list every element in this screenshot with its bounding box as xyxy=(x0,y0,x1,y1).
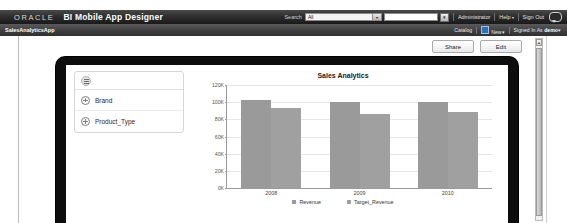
chevron-down-icon: ▾ xyxy=(502,29,505,35)
vertical-scrollbar[interactable]: ▴ xyxy=(535,38,543,221)
page-body: Share Edit ▴ Brand xyxy=(0,36,567,223)
app-title: BI Mobile App Designer xyxy=(63,12,162,22)
filter-item-product-type[interactable]: Product_Type xyxy=(75,111,183,132)
catalog-link[interactable]: Catalog xyxy=(454,27,472,33)
hamburger-menu-icon[interactable] xyxy=(81,76,91,86)
device-screen: Brand Product_Type Sales Analytics 0K20K… xyxy=(66,65,508,223)
header-link-sign-out[interactable]: Sign Out xyxy=(523,14,544,20)
screenshot-root: ORACLE BI Mobile App Designer Search All… xyxy=(0,0,567,223)
filter-panel: Brand Product_Type xyxy=(74,71,184,133)
chat-bubble-icon[interactable] xyxy=(549,12,562,22)
global-header-right: Search All ▾ ▾ Administrator Help▾ Sign … xyxy=(284,10,567,24)
chart-gridline xyxy=(227,85,492,86)
legend-swatch-icon xyxy=(292,200,296,204)
sales-analytics-chart: Sales Analytics 0K20K40K60K80K100K120K20… xyxy=(184,69,502,219)
breadcrumb: SalesAnalyticsApp xyxy=(5,27,55,33)
search-scope-select[interactable]: All ▾ xyxy=(305,13,382,21)
y-axis-tick-label: 100K xyxy=(212,99,224,105)
header-link-administrator[interactable]: Administrator xyxy=(458,14,490,20)
new-menu[interactable]: New▾ xyxy=(481,26,504,35)
chart-bar[interactable] xyxy=(418,102,448,188)
y-axis-tick-label: 0K xyxy=(218,185,224,191)
sub-header-right: Catalog New▾ Signed In As demo▾ xyxy=(454,26,567,35)
y-axis-tick-label: 120K xyxy=(212,82,224,88)
y-axis-tick-mark xyxy=(225,102,227,103)
y-axis-tick-mark xyxy=(225,171,227,172)
scroll-up-arrow-icon[interactable]: ▴ xyxy=(536,39,542,46)
y-axis-tick-mark xyxy=(225,85,227,86)
scrollbar-thumb[interactable] xyxy=(536,48,542,216)
header-link-help-label: Help xyxy=(499,14,510,20)
plus-circle-icon[interactable] xyxy=(81,117,90,126)
signed-in-as-label: Signed In As xyxy=(514,27,543,33)
legend-label: Revenue xyxy=(299,199,321,205)
new-menu-label: New xyxy=(491,29,501,35)
sub-header-divider xyxy=(509,27,510,34)
x-axis-tick-label: 2010 xyxy=(442,190,454,196)
header-divider xyxy=(518,13,519,21)
filter-item-brand[interactable]: Brand xyxy=(75,90,183,111)
legend-swatch-icon xyxy=(347,200,351,204)
chart-bar[interactable] xyxy=(241,100,271,188)
new-document-icon xyxy=(481,26,489,34)
legend-item[interactable]: Target_Revenue xyxy=(347,199,394,205)
plus-circle-icon[interactable] xyxy=(81,96,90,105)
global-header: ORACLE BI Mobile App Designer Search All… xyxy=(0,10,567,24)
chart-bar[interactable] xyxy=(360,114,390,188)
chart-legend: RevenueTarget_Revenue xyxy=(184,199,502,205)
y-axis-tick-label: 80K xyxy=(215,116,224,122)
signed-in-user: demo xyxy=(544,27,558,33)
chart-title: Sales Analytics xyxy=(184,72,502,79)
y-axis-tick-label: 60K xyxy=(215,134,224,140)
chevron-down-icon: ▾ xyxy=(558,27,561,33)
filter-item-label: Product_Type xyxy=(95,118,135,125)
content-frame: Share Edit ▴ Brand xyxy=(18,36,547,223)
y-axis-tick-mark xyxy=(225,119,227,120)
x-axis-tick-label: 2009 xyxy=(354,190,366,196)
search-label: Search xyxy=(284,14,301,20)
chevron-down-icon: ▾ xyxy=(512,15,514,20)
sub-header-bar: SalesAnalyticsApp Catalog New▾ Signed In… xyxy=(0,24,567,36)
y-axis-tick-mark xyxy=(225,188,227,189)
filter-panel-header xyxy=(75,72,183,90)
filter-item-label: Brand xyxy=(95,97,112,104)
signed-in-as-menu[interactable]: Signed In As demo▾ xyxy=(514,27,561,33)
share-button[interactable]: Share xyxy=(432,40,474,53)
chevron-down-icon[interactable]: ▾ xyxy=(372,14,381,20)
legend-item[interactable]: Revenue xyxy=(292,199,321,205)
chart-plot-area: 0K20K40K60K80K100K120K200820092010 xyxy=(226,85,492,189)
y-axis-tick-label: 20K xyxy=(215,168,224,174)
chart-bar[interactable] xyxy=(448,112,478,188)
edit-button[interactable]: Edit xyxy=(480,40,522,53)
y-axis-tick-mark xyxy=(225,137,227,138)
header-divider xyxy=(453,13,454,21)
header-link-help[interactable]: Help▾ xyxy=(499,14,513,20)
y-axis-tick-label: 40K xyxy=(215,151,224,157)
y-axis-tick-mark xyxy=(225,154,227,155)
sub-header-divider xyxy=(476,27,477,34)
header-divider xyxy=(494,13,495,21)
chart-bar[interactable] xyxy=(330,102,360,188)
search-input[interactable] xyxy=(384,13,438,21)
action-toolbar: Share Edit xyxy=(432,40,522,53)
device-preview-frame: Brand Product_Type Sales Analytics 0K20K… xyxy=(56,57,518,223)
x-axis-tick-label: 2008 xyxy=(265,190,277,196)
search-icon[interactable]: ▾ xyxy=(440,13,449,22)
oracle-logo: ORACLE xyxy=(14,13,54,22)
legend-label: Target_Revenue xyxy=(354,199,394,205)
search-scope-value: All xyxy=(306,13,314,21)
chart-bar[interactable] xyxy=(271,108,301,188)
